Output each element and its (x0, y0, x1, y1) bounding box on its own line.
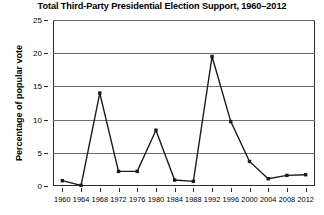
x-tick-label: 2008 (279, 195, 295, 204)
x-tick-label: 1968 (92, 195, 108, 204)
data-point-marker (229, 120, 232, 123)
x-tick-mark (175, 188, 176, 192)
data-point-marker (117, 170, 120, 173)
x-tick-mark (250, 188, 251, 192)
x-tick-label: 2004 (260, 195, 276, 204)
y-tick-label: 15 (33, 82, 42, 91)
y-tick-label: 10 (33, 115, 42, 124)
data-point-marker (154, 129, 157, 132)
y-tick-mark (44, 86, 48, 87)
x-tick-mark (62, 188, 63, 192)
data-point-marker (248, 160, 251, 163)
data-point-marker (79, 184, 82, 187)
x-tick-label: 1980 (148, 195, 164, 204)
plot-area (53, 20, 315, 186)
x-tick-label: 1960 (54, 195, 70, 204)
chart-title: Total Third-Party Presidential Election … (0, 1, 324, 11)
x-tick-mark (156, 188, 157, 192)
y-tick-mark (44, 153, 48, 154)
x-tick-mark (119, 188, 120, 192)
x-axis-tick-labels: 1960196419681972197619801984198819921996… (53, 188, 315, 210)
line-series (53, 20, 315, 186)
x-tick-label: 1964 (73, 195, 89, 204)
y-tick-mark (44, 20, 48, 21)
x-tick-mark (231, 188, 232, 192)
x-tick-label: 1988 (185, 195, 201, 204)
y-tick-label: 5 (38, 148, 42, 157)
y-tick-mark (44, 53, 48, 54)
data-point-marker (98, 91, 101, 94)
data-point-marker (210, 55, 213, 58)
data-point-marker (192, 180, 195, 183)
x-tick-label: 1976 (129, 195, 145, 204)
x-tick-label: 1984 (166, 195, 182, 204)
x-tick-mark (137, 188, 138, 192)
x-tick-mark (212, 188, 213, 192)
x-tick-label: 2000 (241, 195, 257, 204)
y-tick-mark (44, 120, 48, 121)
x-tick-mark (268, 188, 269, 192)
x-tick-mark (193, 188, 194, 192)
x-tick-mark (287, 188, 288, 192)
y-tick-mark (44, 186, 48, 187)
y-tick-label: 0 (38, 182, 42, 191)
series-line (62, 57, 305, 186)
data-point-marker (304, 173, 307, 176)
x-tick-mark (81, 188, 82, 192)
x-tick-mark (100, 188, 101, 192)
x-tick-label: 1996 (223, 195, 239, 204)
y-tick-label: 20 (33, 49, 42, 58)
y-axis-tick-labels: 0510152025 (0, 20, 50, 186)
data-point-marker (173, 178, 176, 181)
y-tick-label: 25 (33, 16, 42, 25)
data-point-marker (61, 179, 64, 182)
x-tick-label: 2012 (297, 195, 313, 204)
data-point-marker (136, 170, 139, 173)
data-point-marker (267, 177, 270, 180)
x-tick-mark (306, 188, 307, 192)
data-point-marker (285, 174, 288, 177)
x-tick-label: 1992 (204, 195, 220, 204)
x-tick-label: 1972 (110, 195, 126, 204)
chart-figure: Total Third-Party Presidential Election … (0, 0, 324, 215)
